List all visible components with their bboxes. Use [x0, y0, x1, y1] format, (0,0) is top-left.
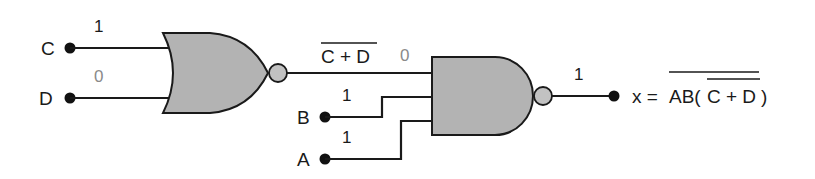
nand-gate-body	[432, 57, 533, 135]
input-a: A 1	[297, 121, 432, 170]
nor-output-value: 0	[400, 46, 409, 65]
input-d-value: 0	[94, 67, 103, 86]
output-expression-prefix: x =	[632, 86, 658, 107]
output-expression: x = AB( C + D )	[632, 72, 767, 107]
output-expression-ab: AB(	[669, 86, 701, 107]
input-d-label: D	[39, 88, 53, 109]
nand-gate-inversion-bubble	[534, 87, 552, 105]
input-b-value: 1	[342, 86, 351, 105]
input-c-label: C	[41, 38, 55, 59]
output-x: 1 x = AB( C + D )	[552, 65, 767, 107]
input-c: C 1	[41, 17, 170, 59]
input-c-value: 1	[94, 17, 103, 36]
nand-gate	[432, 57, 552, 135]
output-terminal	[609, 91, 620, 102]
logic-circuit-diagram: C 1 D 0 C + D 0 B 1 A 1	[0, 0, 815, 179]
input-a-label: A	[297, 149, 310, 170]
nor-gate	[163, 33, 287, 113]
input-d: D 0	[39, 67, 170, 109]
nor-output-label: C + D 0	[321, 43, 409, 67]
input-a-value: 1	[342, 128, 351, 147]
output-expression-close: )	[761, 86, 767, 107]
nor-output-expression: C + D	[321, 46, 370, 67]
nor-gate-body	[163, 33, 268, 113]
nor-gate-inversion-bubble	[269, 64, 287, 82]
input-b-label: B	[297, 107, 310, 128]
output-expression-inner: C + D	[707, 86, 756, 107]
output-value: 1	[574, 65, 583, 84]
